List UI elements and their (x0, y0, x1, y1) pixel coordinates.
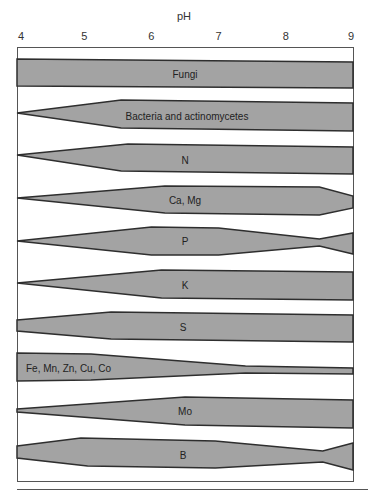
band-label: P (182, 236, 189, 247)
band-label: Mo (178, 406, 192, 417)
band-label: B (180, 450, 187, 461)
bottom-rule (17, 489, 368, 490)
band-label: Ca, Mg (169, 195, 201, 206)
band-label: N (181, 155, 188, 166)
band-label: K (182, 280, 189, 291)
band-label: Fungi (172, 69, 197, 80)
band-label: S (180, 322, 187, 333)
band-label: Fe, Mn, Zn, Cu, Co (26, 363, 111, 374)
band-label: Bacteria and actinomycetes (126, 111, 249, 122)
